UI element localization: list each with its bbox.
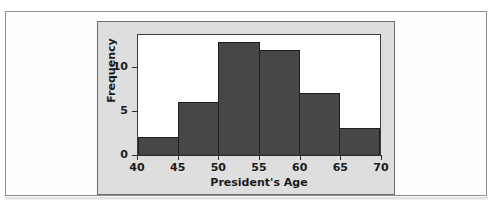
y-axis-tick-label: 0 [108,149,128,160]
page-canvas: 40455055606570 0510 President's Age Freq… [0,0,492,214]
x-axis-tick [259,155,260,160]
x-axis-title: President's Age [137,176,381,189]
y-axis-tick [132,155,137,156]
x-axis-tick [218,155,219,160]
y-axis-tick [132,111,137,112]
y-axis-tick [132,67,137,68]
x-axis-tick-label: 70 [366,161,396,174]
x-axis-tick [381,155,382,160]
plot-area [137,34,381,155]
x-axis-tick [340,155,341,160]
bar-series [138,35,380,154]
sheet-shadow [5,197,488,200]
x-axis-tick-label: 55 [244,161,274,174]
histogram-bar [178,102,219,154]
x-axis-tick [178,155,179,160]
x-axis-tick-label: 65 [325,161,355,174]
histogram-bar [218,42,259,155]
x-axis-tick-label: 60 [285,161,315,174]
histogram-bar [299,93,340,154]
x-axis-tick [300,155,301,160]
histogram-chart: 40455055606570 0510 President's Age Freq… [98,22,394,194]
histogram-bar [138,137,179,154]
x-axis-tick [137,155,138,160]
histogram-figure-panel: 40455055606570 0510 President's Age Freq… [97,21,395,195]
x-axis-tick-label: 50 [203,161,233,174]
y-axis-title: Frequency [105,31,118,111]
x-axis-tick-label: 40 [122,161,152,174]
histogram-bar [259,50,300,154]
histogram-bar [339,128,380,154]
x-axis-tick-label: 45 [163,161,193,174]
